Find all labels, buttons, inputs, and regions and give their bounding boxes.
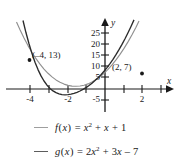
x-axis	[6, 85, 174, 93]
legend-g-exp: 2	[96, 144, 100, 152]
y-tick-label-25: 25	[78, 29, 100, 38]
y-tick-label-15: 15	[78, 51, 100, 60]
point-label-right: (2, 7)	[112, 63, 132, 72]
intersection-point-right	[140, 72, 144, 76]
y-tick-label-10: 10	[78, 62, 100, 71]
y-axis-label: y	[111, 19, 115, 29]
point-label-left: (–4, 13)	[32, 51, 61, 60]
x-axis-label: x	[167, 77, 171, 87]
intersection-point-left	[28, 58, 32, 62]
legend-g-term1: x	[117, 146, 122, 157]
x-tick-label--2: -2	[60, 95, 76, 104]
legend-g-term2: 7	[133, 146, 138, 157]
y-tick-label--5: -5	[78, 95, 100, 104]
y-axis	[101, 18, 109, 112]
y-tick-label-5: 5	[78, 73, 100, 82]
legend-item-f: f(x) = x2 + x + 1	[0, 116, 179, 138]
x-tick-label--4: -4	[22, 95, 38, 104]
parabola-intersection-figure: 25 20 15 10 5 -5 -4 -2 2 y x (–4, 13) (2…	[0, 0, 179, 166]
plot-area: 25 20 15 10 5 -5 -4 -2 2 y x (–4, 13) (2…	[0, 0, 179, 112]
legend-swatch-g-icon	[34, 151, 48, 152]
legend-swatch-f-icon	[34, 127, 48, 128]
y-tick-label-20: 20	[78, 40, 100, 49]
x-tick-label-2: 2	[134, 95, 150, 104]
legend-f-term2: 1	[121, 122, 126, 133]
legend-item-g: g(x) = 2x2 + 3x – 7	[0, 140, 179, 162]
legend: f(x) = x2 + x + 1 g(x) = 2x2 + 3x – 7	[0, 112, 179, 166]
legend-label-g: g(x) = 2x2 + 3x – 7	[55, 146, 138, 157]
legend-label-f: f(x) = x2 + x + 1	[55, 122, 126, 133]
